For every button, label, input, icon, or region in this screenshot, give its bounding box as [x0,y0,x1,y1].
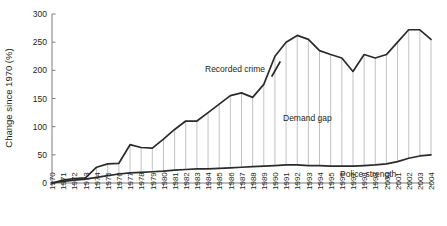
x-tick-label: 1974 [93,172,102,190]
annotation-demand-gap: Demand gap [283,113,332,123]
x-tick-label: 1995 [327,172,336,190]
x-tick-label: 1988 [249,172,258,190]
x-tick-label: 1991 [282,172,291,190]
x-tick-label: 1975 [104,172,113,190]
x-tick-label: 2003 [416,172,425,190]
y-tick-label: 50 [38,150,48,160]
x-tick-label: 1992 [293,172,302,190]
x-tick-label: 1971 [59,172,68,190]
x-tick-label: 1981 [171,172,180,190]
x-tick-label: 1979 [149,172,158,190]
x-tick-label: 1977 [126,172,135,190]
change-since-1970-line-chart: 050100150200250300 197019711972197319741… [0,0,447,226]
x-tick-label: 1980 [160,172,169,190]
plot-background [0,0,447,226]
y-axis-title: Change since 1970 (%) [3,48,14,147]
x-tick-label: 1972 [70,172,79,190]
x-tick-label: 2002 [405,172,414,190]
x-tick-label: 1993 [305,172,314,190]
y-tick-label: 100 [33,122,47,132]
y-tick-label: 0 [42,178,47,188]
x-tick-label: 1990 [271,172,280,190]
chart-container: 050100150200250300 197019711972197319741… [0,0,447,226]
x-tick-label: 1978 [137,172,146,190]
x-tick-label: 1970 [48,172,57,190]
x-tick-label: 1985 [215,172,224,190]
x-tick-label: 2004 [427,172,436,190]
y-tick-label: 250 [33,37,47,47]
annotation-police-strength: Police strength [340,169,396,179]
x-tick-label: 1983 [193,172,202,190]
x-tick-label: 1976 [115,172,124,190]
y-tick-label: 300 [33,9,47,19]
x-tick-label: 1973 [82,172,91,190]
y-tick-label: 150 [33,94,47,104]
x-tick-label: 1982 [182,172,191,190]
annotation-recorded-crime: Recorded crime [205,64,265,74]
x-tick-label: 1986 [227,172,236,190]
y-tick-label: 200 [33,65,47,75]
x-tick-label: 1984 [204,172,213,190]
x-tick-label: 1989 [260,172,269,190]
x-tick-label: 1987 [238,172,247,190]
x-tick-label: 1994 [316,172,325,190]
